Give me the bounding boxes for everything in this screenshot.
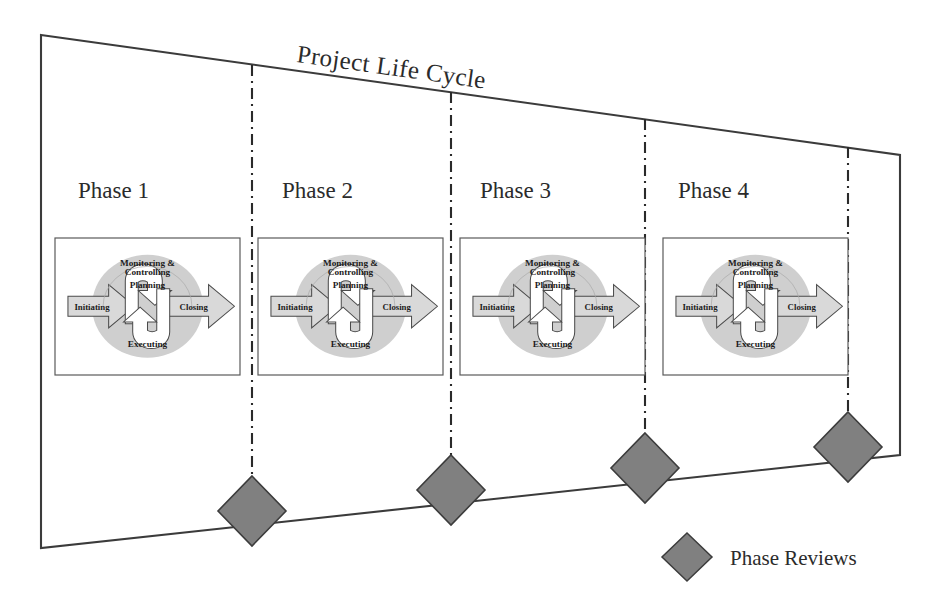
pg-label-executing-1: Executing bbox=[128, 339, 168, 348]
process-group-box-3: Monitoring & Controlling Planning Execut… bbox=[460, 238, 645, 375]
process-group-box-4: Monitoring & Controlling Planning Execut… bbox=[663, 238, 848, 375]
phase-review-diamond-3[interactable] bbox=[611, 433, 679, 503]
pg-label-controlling-2: Controlling bbox=[328, 267, 374, 276]
pg-label-planning-3: Planning bbox=[535, 280, 571, 289]
pg-label-executing-3: Executing bbox=[533, 339, 573, 348]
pg-label-controlling-3: Controlling bbox=[530, 267, 576, 276]
phase-label-2: Phase 2 bbox=[282, 178, 353, 203]
pg-label-executing-4: Executing bbox=[736, 339, 776, 348]
pg-label-planning-4: Planning bbox=[738, 280, 774, 289]
pg-label-initiating-3: Initiating bbox=[479, 303, 515, 312]
phase-review-diamond-4[interactable] bbox=[814, 412, 882, 482]
phase-label-4: Phase 4 bbox=[678, 178, 749, 203]
process-group-box-1: Monitoring & Controlling Planning Execut… bbox=[55, 238, 240, 375]
pg-label-executing-2: Executing bbox=[331, 339, 371, 348]
legend-label: Phase Reviews bbox=[730, 546, 857, 570]
diagram-canvas: Project Life Cycle Phase 1 Phase 2 Phase… bbox=[0, 0, 938, 604]
pg-label-closing-3: Closing bbox=[585, 303, 614, 312]
pg-label-initiating-4: Initiating bbox=[682, 303, 718, 312]
pg-label-monitoring-4: Monitoring & bbox=[728, 258, 783, 267]
phase-review-diamond-2[interactable] bbox=[417, 455, 485, 525]
pg-label-closing-4: Closing bbox=[788, 303, 817, 312]
pg-label-monitoring-3: Monitoring & bbox=[525, 258, 580, 267]
diagram-title: Project Life Cycle bbox=[295, 40, 487, 93]
legend-diamond-icon bbox=[662, 533, 712, 581]
phase-label-1: Phase 1 bbox=[78, 178, 149, 203]
pg-label-closing-2: Closing bbox=[383, 303, 412, 312]
pg-label-monitoring-1: Monitoring & bbox=[120, 258, 175, 267]
pg-label-planning-2: Planning bbox=[333, 280, 369, 289]
phase-review-diamond-1[interactable] bbox=[218, 476, 286, 546]
pg-label-closing-1: Closing bbox=[180, 303, 209, 312]
process-group-box-2: Monitoring & Controlling Planning Execut… bbox=[258, 238, 443, 375]
legend: Phase Reviews bbox=[662, 533, 857, 581]
pg-label-controlling-4: Controlling bbox=[733, 267, 779, 276]
pg-label-controlling-1: Controlling bbox=[125, 267, 171, 276]
pg-label-initiating-1: Initiating bbox=[74, 303, 110, 312]
pg-label-planning-1: Planning bbox=[130, 280, 166, 289]
project-life-cycle-svg: Project Life Cycle Phase 1 Phase 2 Phase… bbox=[0, 0, 938, 604]
pg-label-monitoring-2: Monitoring & bbox=[323, 258, 378, 267]
pg-label-initiating-2: Initiating bbox=[277, 303, 313, 312]
phase-label-3: Phase 3 bbox=[480, 178, 551, 203]
